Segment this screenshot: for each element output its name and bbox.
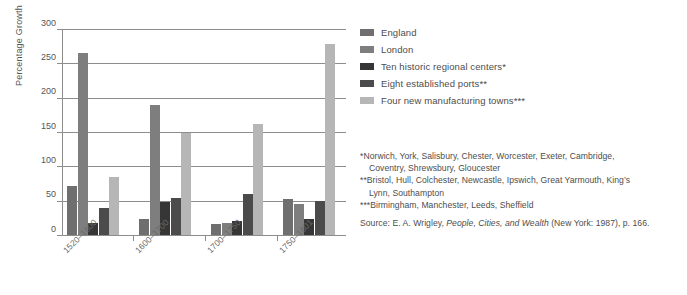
y-tickmark-0	[57, 235, 63, 236]
footnote-1: *Norwich, York, Salisbury, Chester, Worc…	[360, 150, 682, 174]
bar	[253, 124, 263, 235]
legend-swatch-icon-eight-established-ports	[360, 80, 374, 87]
bar	[315, 201, 325, 235]
chart-legend: England London Ten historic regional cen…	[360, 24, 680, 109]
y-tick-100: 100	[28, 156, 56, 165]
bar	[78, 53, 88, 235]
legend-swatch-icon-london	[360, 46, 374, 53]
footnote-3: ***Birmingham, Manchester, Leeds, Sheffi…	[360, 199, 682, 211]
bar-chart: Percentage Growth 300 250 200 150 100 50…	[0, 0, 352, 295]
legend-swatch-icon-england	[360, 29, 374, 36]
x-tickmark-2	[205, 236, 206, 241]
y-tick-200: 200	[28, 87, 56, 96]
x-tickmark-1	[133, 236, 134, 241]
bar	[325, 44, 335, 235]
bar	[283, 199, 293, 235]
legend-item-four-new-manufacturing-towns: Four new manufacturing towns***	[360, 92, 680, 109]
bar	[181, 133, 191, 235]
source-citation: Source: E. A. Wrigley, People, Cities, a…	[360, 217, 682, 229]
y-tick-0: 0	[28, 225, 56, 234]
y-axis-tick-labels: 300 250 200 150 100 50 0	[28, 24, 56, 239]
legend-label-london: London	[381, 44, 413, 55]
bar-group	[67, 29, 123, 235]
legend-item-eight-established-ports: Eight established ports**	[360, 75, 680, 92]
y-tick-150: 150	[28, 122, 56, 131]
legend-label-four-new-manufacturing-towns: Four new manufacturing towns***	[381, 95, 525, 106]
source-prefix: Source: E. A. Wrigley,	[360, 218, 446, 228]
footnote-2-line-1: **Bristol, Hull, Colchester, Newcastle, …	[360, 175, 630, 185]
legend-swatch-icon-ten-historic-regional-centers	[360, 63, 374, 70]
bar	[150, 105, 160, 235]
footnote-3-text: ***Birmingham, Manchester, Leeds, Sheffi…	[360, 200, 533, 210]
legend-label-ten-historic-regional-centers: Ten historic regional centers*	[381, 61, 506, 72]
bar	[109, 177, 119, 235]
bar	[171, 198, 181, 235]
bar-group	[283, 29, 339, 235]
footnote-2: **Bristol, Hull, Colchester, Newcastle, …	[360, 174, 682, 198]
legend-item-ten-historic-regional-centers: Ten historic regional centers*	[360, 58, 680, 75]
source-suffix: (New York: 1987), p. 166.	[549, 218, 650, 228]
bar	[99, 208, 109, 235]
bar-groups	[63, 29, 346, 235]
legend-swatch-icon-four-new-manufacturing-towns	[360, 97, 374, 104]
footnote-2-line-2: Lynn, Southampton	[369, 188, 444, 198]
y-tick-300: 300	[28, 19, 56, 28]
bar	[67, 186, 77, 235]
footnote-1-line-2: Coventry, Shrewsbury, Gloucester	[369, 163, 500, 173]
bar-group	[139, 29, 195, 235]
chart-footnotes: *Norwich, York, Salisbury, Chester, Worc…	[360, 150, 682, 229]
x-tickmark-3	[277, 236, 278, 241]
legend-item-england: England	[360, 24, 680, 41]
bar-group	[211, 29, 267, 235]
legend-item-london: London	[360, 41, 680, 58]
y-axis-title: Percentage Growth	[14, 0, 24, 86]
y-tick-50: 50	[28, 190, 56, 199]
legend-label-eight-established-ports: Eight established ports**	[381, 78, 487, 89]
legend-label-england: England	[381, 27, 417, 38]
source-title: People, Cities, and Wealth	[446, 218, 548, 228]
y-tick-250: 250	[28, 53, 56, 62]
footnote-1-line-1: *Norwich, York, Salisbury, Chester, Worc…	[360, 151, 615, 161]
bar	[243, 194, 253, 235]
